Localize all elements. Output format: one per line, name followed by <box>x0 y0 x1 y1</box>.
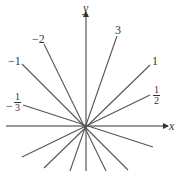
slope-line <box>44 44 106 171</box>
slope-label-half: 1 2 <box>153 85 160 106</box>
slope-line <box>22 64 128 170</box>
slope-label-neg1: −1 <box>8 55 21 67</box>
slope-label-3: 3 <box>115 24 121 36</box>
diagram-canvas <box>0 0 177 171</box>
fraction-denominator: 3 <box>14 103 21 113</box>
x-axis-label: x <box>169 120 174 132</box>
slope-label-neg-third-sign: − <box>6 100 13 112</box>
fraction-denominator: 2 <box>153 96 160 106</box>
slope-label-neg2: −2 <box>32 33 45 45</box>
slope-diagram: y x 3 −2 −1 1 − 1 3 1 2 <box>0 0 177 171</box>
slope-label-1: 1 <box>152 55 158 67</box>
slope-label-neg-third: 1 3 <box>14 92 21 113</box>
y-axis-label: y <box>83 2 88 14</box>
